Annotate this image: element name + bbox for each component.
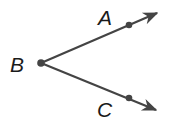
vertex-point-b [37, 59, 45, 67]
angle-diagram: A B C [0, 0, 173, 130]
label-a: A [96, 6, 112, 29]
label-b: B [10, 53, 24, 76]
label-c: C [97, 98, 113, 121]
point-c [126, 95, 133, 102]
point-a [126, 22, 133, 29]
